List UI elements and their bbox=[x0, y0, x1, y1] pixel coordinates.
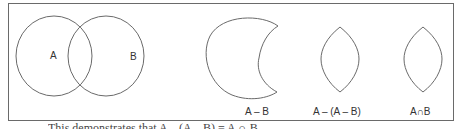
panel-label-a-intersect-b: A∩B bbox=[410, 106, 431, 117]
venn-label-b: B bbox=[130, 51, 137, 62]
lens-a-intersect-b bbox=[404, 27, 442, 92]
panel-label-a-minus-a-minus-b: A – (A – B) bbox=[313, 106, 361, 117]
set-diagram bbox=[0, 0, 461, 129]
lens-a-minus-a-minus-b bbox=[321, 27, 359, 92]
caption-cut-off: This demonstrates that A – (A – B) = A ∩… bbox=[48, 122, 258, 129]
crescent-a-minus-b bbox=[206, 18, 278, 99]
venn-label-a: A bbox=[50, 50, 57, 61]
panel-label-a-minus-b: A – B bbox=[245, 106, 269, 117]
